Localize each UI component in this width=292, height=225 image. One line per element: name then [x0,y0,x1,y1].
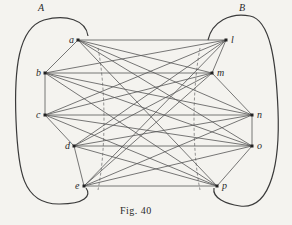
edge-c-l [45,40,226,115]
node-l [225,39,228,42]
edges [45,40,252,186]
node-b [44,72,47,75]
node-e [83,185,86,188]
region-a-boundary [16,18,88,204]
node-label-a: a [69,34,74,45]
edge-m-n [212,73,252,115]
node-d [73,145,76,148]
group-label-b: B [239,2,245,13]
edge-a-p [78,40,217,186]
edge-b-o [45,73,252,146]
node-label-c: c [36,109,41,120]
node-label-m: m [217,67,224,78]
edge-a-m [78,40,212,73]
edge-d-l [74,40,226,146]
node-label-n: n [257,109,262,120]
node-a [77,39,80,42]
complete-bipartite-diagram: abcdelmnop A B Fig. 40 [0,0,292,225]
figure-caption: Fig. 40 [120,205,152,216]
edge-d-n [74,115,252,146]
node-c [44,114,47,117]
region-b-boundary [208,15,278,206]
node-label-p: p [221,180,227,191]
edge-c-m [45,73,212,115]
edge-d-p [74,146,217,186]
node-n [251,114,254,117]
node-label-b: b [36,67,41,78]
node-label-e: e [75,180,80,191]
edge-b-p [45,73,217,186]
node-label-l: l [231,34,234,45]
node-label-o: o [257,140,262,151]
edge-d-m [74,73,212,146]
group-label-a: A [37,2,45,13]
node-m [211,72,214,75]
node-o [251,145,254,148]
node-p [216,185,219,188]
